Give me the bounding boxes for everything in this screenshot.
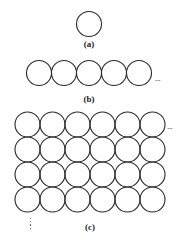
grid-circle xyxy=(115,137,140,162)
grid-circle xyxy=(65,162,90,187)
panel-b-label: (b) xyxy=(84,95,95,104)
circle xyxy=(27,61,52,86)
grid-circle xyxy=(15,162,40,187)
grid-circle xyxy=(15,137,40,162)
circle xyxy=(102,61,127,86)
row-continuation-ellipsis: ... xyxy=(155,74,160,83)
panel-a-single-circle xyxy=(77,12,102,37)
grid-circle xyxy=(115,162,140,187)
grid-circle xyxy=(15,112,40,137)
grid-circle xyxy=(115,187,140,212)
circle xyxy=(127,61,152,86)
panel-b-circle-row xyxy=(27,61,152,86)
circle xyxy=(77,12,102,37)
circle xyxy=(77,61,102,86)
grid-circle xyxy=(90,137,115,162)
grid-circle xyxy=(65,137,90,162)
grid-circle xyxy=(40,137,65,162)
grid-circle xyxy=(40,112,65,137)
panel-a-label: (a) xyxy=(84,40,95,49)
grid-circle xyxy=(65,187,90,212)
grid-circle xyxy=(140,112,165,137)
grid-circle xyxy=(90,187,115,212)
circle xyxy=(52,61,77,86)
grid-continuation-right-ellipsis: ... xyxy=(167,122,172,131)
grid-circle xyxy=(140,162,165,187)
panel-c-circle-grid xyxy=(15,112,165,212)
grid-circle xyxy=(15,187,40,212)
panel-c-label: (c) xyxy=(85,223,95,232)
grid-circle xyxy=(40,162,65,187)
grid-circle xyxy=(90,112,115,137)
grid-circle xyxy=(140,187,165,212)
grid-circle xyxy=(65,112,90,137)
circle-packing-diagram xyxy=(0,0,183,242)
grid-circle xyxy=(140,137,165,162)
grid-circle xyxy=(90,162,115,187)
grid-continuation-down-dots xyxy=(30,218,32,229)
grid-circle xyxy=(40,187,65,212)
grid-circle xyxy=(115,112,140,137)
